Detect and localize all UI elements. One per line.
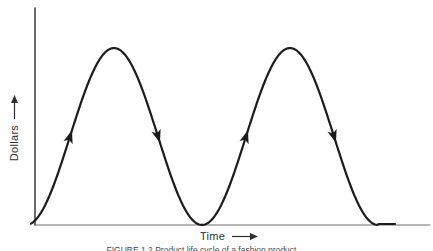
flow-arrow-up-icon xyxy=(239,129,252,144)
y-axis-label: Dollars xyxy=(6,91,22,165)
figure-canvas: Dollars Time FIGURE 1.2 Product life cyc… xyxy=(0,0,433,251)
x-axis-label-text: Time xyxy=(200,230,225,242)
flow-arrow-down-icon xyxy=(151,129,164,144)
life-cycle-curve xyxy=(31,48,395,225)
figure-caption: FIGURE 1.2 Product life cycle of a fashi… xyxy=(0,246,433,251)
x-axis-label: Time xyxy=(186,229,272,243)
x-axis-arrow-icon xyxy=(232,232,258,241)
flow-arrow-down-icon xyxy=(327,129,340,144)
y-axis-arrow-icon xyxy=(10,95,19,119)
chart-plot xyxy=(0,0,433,251)
y-axis-label-text: Dollars xyxy=(8,125,20,161)
flow-arrow-up-icon xyxy=(63,129,76,144)
flow-arrows xyxy=(63,129,340,144)
